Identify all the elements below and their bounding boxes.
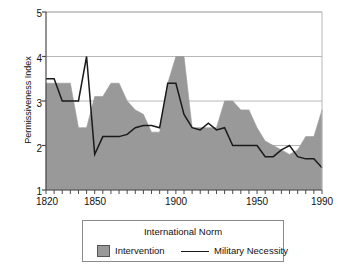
intervention-area [46,57,322,191]
legend-label-military-necessity: Military Necessity [214,245,288,256]
legend-line-military-necessity [181,251,209,252]
chart-legend: International Norm Intervention Military… [82,220,284,262]
legend-label-intervention: Intervention [115,245,165,256]
legend-items: Intervention Military Necessity [83,243,283,259]
legend-swatch-intervention [97,245,110,257]
chart-figure: Permissiveness Index 5 4 3 2 1 1820 1850… [0,0,343,275]
legend-title: International Norm [83,226,283,237]
